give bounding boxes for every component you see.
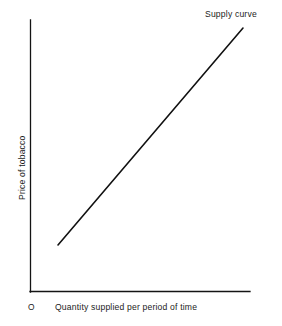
supply-curve-line bbox=[58, 28, 243, 245]
plot-area bbox=[0, 0, 282, 326]
origin-label: O bbox=[28, 303, 35, 311]
supply-curve-figure: Supply curve Price of tobacco O Quantity… bbox=[0, 0, 282, 326]
y-axis-label: Price of tobacco bbox=[18, 135, 27, 200]
x-axis-label: Quantity supplied per period of time bbox=[55, 303, 197, 312]
supply-curve-label: Supply curve bbox=[205, 10, 257, 19]
